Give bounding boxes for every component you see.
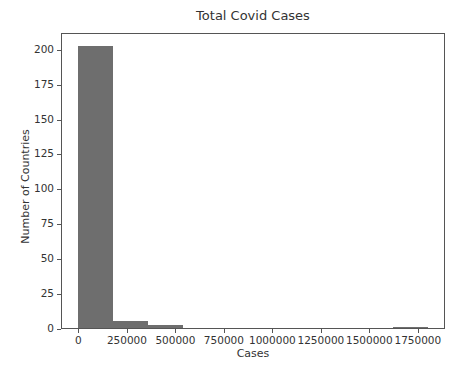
y-tick-label: 125 xyxy=(14,147,54,159)
y-tick-mark xyxy=(57,189,61,190)
histogram-bar xyxy=(113,321,148,328)
plot-area xyxy=(61,33,445,329)
x-tick-mark xyxy=(127,329,128,333)
chart-title: Total Covid Cases xyxy=(61,8,445,23)
y-tick-label: 175 xyxy=(14,78,54,90)
y-tick-label: 100 xyxy=(14,182,54,194)
y-tick-mark xyxy=(57,259,61,260)
y-tick-mark xyxy=(57,329,61,330)
x-tick-mark xyxy=(78,329,79,333)
y-tick-label: 200 xyxy=(14,43,54,55)
x-tick-mark xyxy=(175,329,176,333)
histogram-bar xyxy=(148,325,183,328)
y-tick-mark xyxy=(57,224,61,225)
x-tick-mark xyxy=(272,329,273,333)
y-tick-label: 150 xyxy=(14,113,54,125)
x-tick-mark xyxy=(369,329,370,333)
y-tick-label: 25 xyxy=(14,287,54,299)
x-tick-mark xyxy=(224,329,225,333)
y-tick-mark xyxy=(57,85,61,86)
x-axis-label: Cases xyxy=(61,347,445,360)
histogram-bar xyxy=(393,327,428,328)
y-tick-mark xyxy=(57,154,61,155)
y-tick-mark xyxy=(57,50,61,51)
x-tick-label: 1750000 xyxy=(383,334,453,346)
y-tick-label: 0 xyxy=(14,322,54,334)
y-tick-label: 50 xyxy=(14,252,54,264)
y-tick-mark xyxy=(57,120,61,121)
y-tick-mark xyxy=(57,294,61,295)
x-tick-mark xyxy=(418,329,419,333)
y-tick-label: 75 xyxy=(14,217,54,229)
x-tick-mark xyxy=(321,329,322,333)
histogram-bar xyxy=(78,46,113,328)
